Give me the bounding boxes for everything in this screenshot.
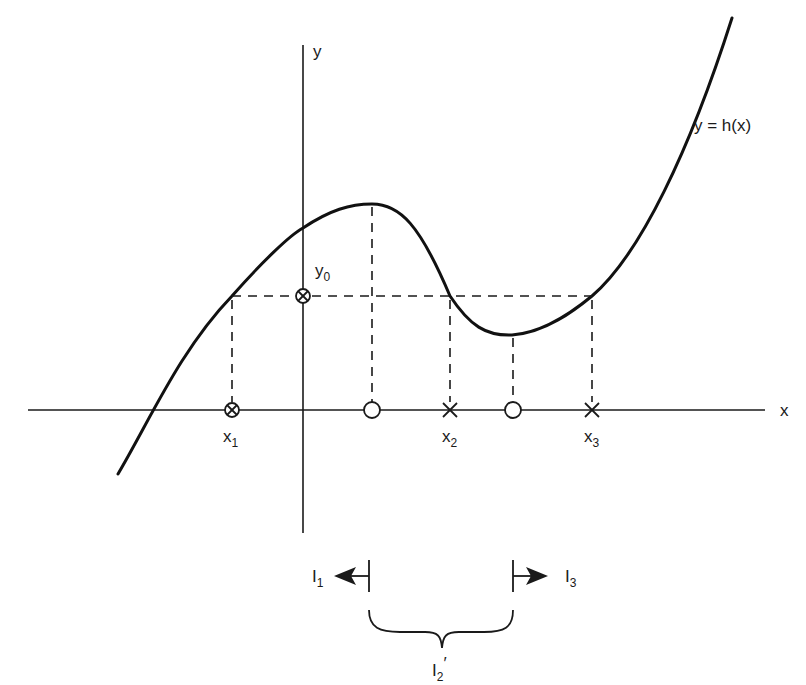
local-max-open-circle-icon bbox=[364, 402, 380, 418]
interval-3-label: I3 bbox=[565, 567, 577, 590]
y0-marker-icon bbox=[296, 289, 310, 303]
y0-label: y0 bbox=[315, 261, 331, 284]
x2-label: x2 bbox=[442, 427, 458, 450]
interval-2-prime-label: I2′ bbox=[432, 654, 447, 684]
curve-label: y = h(x) bbox=[694, 116, 751, 135]
x-axis-label: x bbox=[780, 401, 789, 420]
x3-label: x3 bbox=[584, 427, 600, 450]
local-min-open-circle-icon bbox=[505, 402, 521, 418]
cubic-root-diagram: x y y = h(x) y0 x1 x2 bbox=[0, 0, 806, 685]
y-axis-label: y bbox=[313, 42, 322, 61]
x1-label: x1 bbox=[223, 427, 239, 450]
interval-1-label: I1 bbox=[312, 567, 324, 590]
curve-h bbox=[118, 18, 732, 474]
interval-2-brace bbox=[369, 610, 513, 648]
x1-marker-icon bbox=[225, 403, 239, 417]
